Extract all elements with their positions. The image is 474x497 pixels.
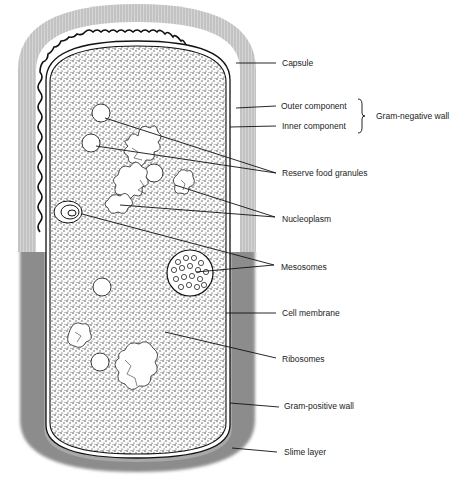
mesosome-left [54,201,82,223]
label-nucleoplasm: Nucleoplasm [282,214,331,224]
label-outer-component: Outer component [281,101,347,111]
label-reserve-food-granules: Reserve food granules [282,168,368,178]
mesosome-right [167,250,213,296]
label-slime-layer: Slime layer [284,447,326,457]
label-ribosomes: Ribosomes [282,354,325,364]
gram-negative-brace [358,99,365,133]
cytoplasm [50,46,226,454]
label-cell-membrane: Cell membrane [282,308,340,318]
label-capsule: Capsule [282,58,313,68]
label-mesosomes: Mesosomes [281,262,327,272]
label-gram-positive-wall: Gram-positive wall [284,401,354,411]
label-gram-negative-wall: Gram-negative wall [376,111,449,121]
label-inner-component: Inner component [282,121,346,131]
bacterial-cell-diagram [0,0,474,497]
